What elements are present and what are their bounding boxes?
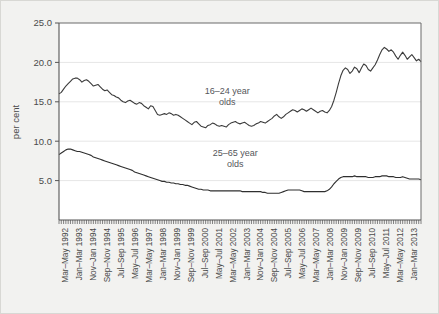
x-tick-label: Sep–Nov 1999 <box>187 228 196 283</box>
x-tick-label: Jan–Mar 2008 <box>326 228 335 281</box>
x-tick-label: Mar–May 1997 <box>145 228 154 283</box>
x-axis-ticks <box>59 220 421 224</box>
x-tick-label: Jul–Sep 2000 <box>201 228 210 279</box>
y-tick-label: 15.0 <box>34 96 53 107</box>
series-label-16-24-line2: olds <box>219 97 236 107</box>
x-tick-label: Nov–Jan 1994 <box>89 228 98 281</box>
x-tick-label: Jul–Sep 2010 <box>368 228 377 279</box>
x-tick-label: Jan–Mar 2013 <box>410 228 419 281</box>
x-axis-tick-labels: Mar–May 1992Jan–Mar 1993Nov–Jan 1994Sep–… <box>61 228 419 283</box>
x-tick-label: Sep–Nov 2009 <box>354 228 363 283</box>
series-label-25-65-line1: 25–65 year <box>213 148 258 158</box>
x-tick-label: Jan–Mar 1998 <box>159 228 168 281</box>
x-tick-label: Sep–Nov 2004 <box>270 228 279 283</box>
x-tick-label: May–Jul 2001 <box>215 228 224 279</box>
chart-panel: 5.010.015.020.025.0 Mar–May 1992Jan–Mar … <box>0 0 439 314</box>
series-label-25-65-line2: olds <box>227 159 244 169</box>
x-tick-label: Sep–Nov 1994 <box>103 228 112 283</box>
x-tick-label: May–Jul 2011 <box>382 228 391 279</box>
y-tick-label: 10.0 <box>34 136 53 147</box>
x-tick-label: Nov–Jan 2004 <box>256 228 265 281</box>
y-axis-ticks <box>55 23 59 181</box>
x-tick-label: Mar–May 1992 <box>61 228 70 283</box>
y-tick-label: 5.0 <box>39 175 52 186</box>
x-tick-label: Jul–Sep 2005 <box>284 228 293 279</box>
x-tick-label: Jul–Sep 1995 <box>117 228 126 279</box>
y-tick-label: 25.0 <box>34 17 53 28</box>
x-tick-label: Jan–Mar 2003 <box>243 228 252 281</box>
x-tick-label: Nov–Jan 1999 <box>173 228 182 281</box>
x-tick-label: Mar–May 2002 <box>229 228 238 283</box>
x-tick-label: May–Jul 1996 <box>131 228 140 279</box>
x-tick-label: Nov–Jan 2009 <box>340 228 349 281</box>
x-tick-label: Jan–Mar 1993 <box>75 228 84 281</box>
x-tick-label: Mar–May 2007 <box>312 228 321 283</box>
x-tick-label: May–Jul 2006 <box>298 228 307 279</box>
y-axis-title: per cent <box>10 104 21 139</box>
series-label-16-24-line1: 16–24 year <box>205 86 250 96</box>
unemployment-rate-line-chart: 5.010.015.020.025.0 Mar–May 1992Jan–Mar … <box>1 1 439 314</box>
x-tick-label: Mar–May 2012 <box>396 228 405 283</box>
y-axis-tick-labels: 5.010.015.020.025.0 <box>34 17 53 186</box>
y-tick-label: 20.0 <box>34 57 53 68</box>
